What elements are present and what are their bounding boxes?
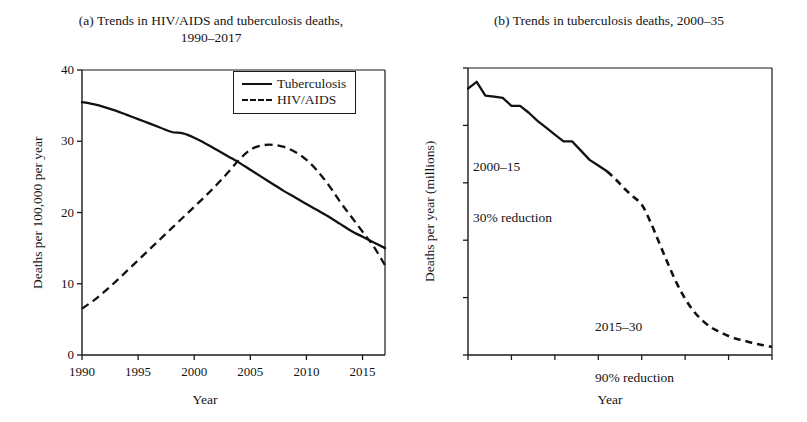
tick-label: 2005 xyxy=(225,364,275,380)
tick-label: 20 xyxy=(20,205,74,221)
tick-label: 2000 xyxy=(169,364,219,380)
panel-a-x-axis-title: Year xyxy=(0,392,410,408)
tick-label: 30 xyxy=(20,133,74,149)
tick-label: 10 xyxy=(20,276,74,292)
legend-dashed-line-icon xyxy=(242,99,272,101)
figure-container: (a) Trends in HIV/AIDS and tuberculosis … xyxy=(0,0,807,422)
annotation-2000-15-line2: 30% reduction xyxy=(473,209,552,226)
panel-a: (a) Trends in HIV/AIDS and tuberculosis … xyxy=(0,0,410,422)
annotation-2015-30: 2015–30 90% reduction xyxy=(595,284,674,420)
legend-label-hivaids: HIV/AIDS xyxy=(277,92,336,108)
tick-label: 2015 xyxy=(338,364,388,380)
annotation-2000-15: 2000–15 30% reduction xyxy=(473,124,552,260)
legend-solid-line-icon xyxy=(242,83,272,85)
series-hivaids-line xyxy=(82,145,385,309)
annotation-2015-30-line1: 2015–30 xyxy=(595,318,674,335)
tick-label: 1990 xyxy=(57,364,107,380)
panel-a-x-tickmarks xyxy=(82,355,363,360)
tick-label: 1995 xyxy=(113,364,163,380)
annotation-2015-30-line2: 90% reduction xyxy=(595,369,674,386)
legend-item-tuberculosis: Tuberculosis xyxy=(242,76,346,92)
series-tuberculosis-line xyxy=(82,102,385,248)
legend-label-tuberculosis: Tuberculosis xyxy=(277,76,346,92)
annotation-2000-15-line1: 2000–15 xyxy=(473,158,552,175)
panel-b-y-tickmarks xyxy=(463,68,468,355)
panel-b-y-axis-title: Deaths per year (millions) xyxy=(422,141,438,282)
tick-label: 0 xyxy=(20,347,74,363)
legend-item-hivaids: HIV/AIDS xyxy=(242,92,346,108)
tick-label: 2010 xyxy=(281,364,331,380)
panel-a-y-tickmarks xyxy=(77,70,82,355)
panel-a-legend: Tuberculosis HIV/AIDS xyxy=(233,71,356,114)
tick-label: 40 xyxy=(20,62,74,78)
panel-b: (b) Trends in tuberculosis deaths, 2000–… xyxy=(410,0,807,422)
panel-a-y-axis-title: Deaths per 100,000 per year xyxy=(30,136,46,289)
